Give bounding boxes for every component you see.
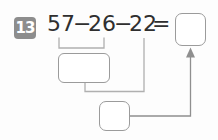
arrow-up-icon: [186, 48, 195, 58]
worksheet-problem: 13 57 − 26 − 22 =: [0, 0, 218, 140]
step1-box[interactable]: [58, 53, 110, 83]
operand-26: 26: [88, 12, 116, 36]
equals-sign: =: [152, 12, 170, 36]
connector-step2-to-answer: [130, 57, 191, 116]
problem-number-badge: 13: [14, 17, 36, 39]
step2-box[interactable]: [99, 101, 130, 131]
operand-57: 57: [47, 12, 75, 36]
bracket-under-57-26: [59, 38, 104, 49]
answer-box[interactable]: [175, 13, 206, 46]
problem-number: 13: [16, 19, 35, 37]
